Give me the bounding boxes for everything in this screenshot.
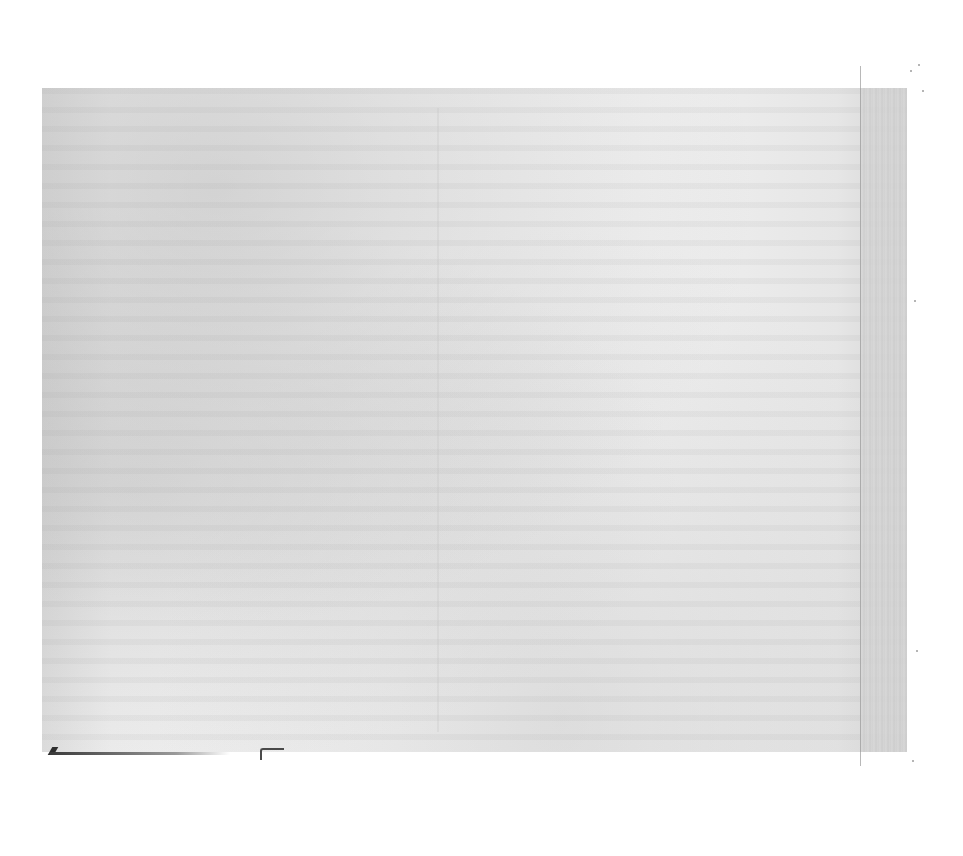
scanned-page (42, 88, 907, 752)
show-through-text (42, 88, 907, 752)
corner-mark (260, 748, 284, 760)
speck (922, 90, 924, 92)
speck (914, 300, 916, 302)
speck (910, 70, 912, 72)
speck (918, 64, 920, 66)
binding-edge-mark (50, 752, 230, 755)
speck (916, 650, 918, 652)
gutter-line (860, 66, 861, 766)
edge-specks (908, 60, 938, 780)
column-divider (437, 108, 439, 732)
scan-canvas (0, 0, 963, 856)
speck (912, 760, 914, 762)
binding-gutter (860, 88, 907, 752)
